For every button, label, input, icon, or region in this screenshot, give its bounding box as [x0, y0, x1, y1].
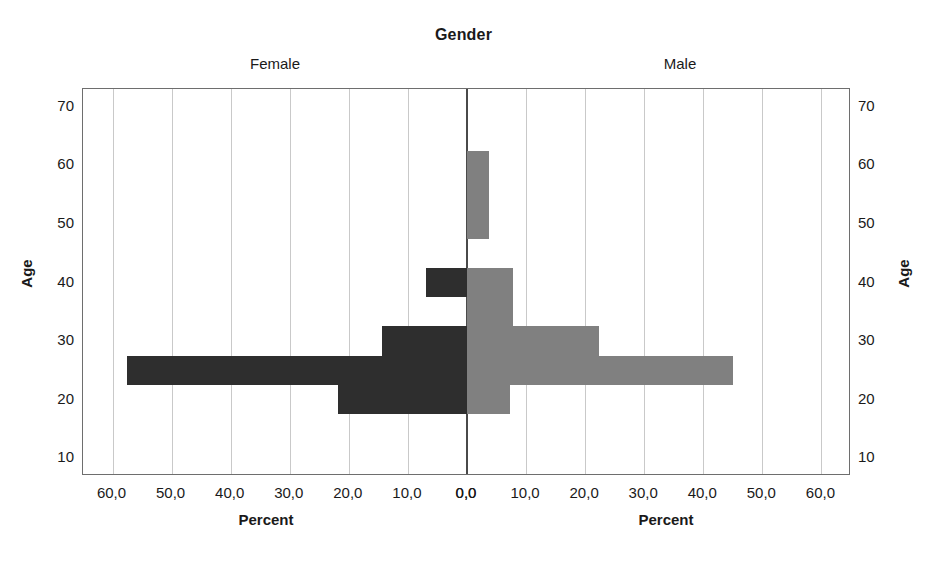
y-tick-label-left: 10	[34, 448, 74, 466]
y-tick-label-left: 70	[34, 97, 74, 115]
gridline	[703, 89, 704, 474]
gridline	[585, 89, 586, 474]
x-axis-title-left: Percent	[166, 511, 366, 528]
y-tick-label-right: 70	[858, 97, 898, 115]
bar-female-age-30	[382, 326, 467, 355]
gridline	[408, 89, 409, 474]
x-tick-label: 20,0	[318, 484, 378, 501]
y-tick-label-right: 20	[858, 390, 898, 408]
gridline	[821, 89, 822, 474]
y-tick-label-right: 30	[858, 331, 898, 349]
bar-male-age-55	[467, 180, 489, 209]
x-tick-label: 50,0	[141, 484, 201, 501]
bar-female-age-40	[426, 268, 467, 297]
gridline	[113, 89, 114, 474]
x-axis-title-right: Percent	[566, 511, 766, 528]
gridline	[231, 89, 232, 474]
gridline	[762, 89, 763, 474]
y-tick-label-left: 40	[34, 273, 74, 291]
population-pyramid-chart: Gender Female Male Age Age Percent Perce…	[0, 0, 927, 565]
x-tick-label: 60,0	[82, 484, 142, 501]
bar-male-age-50	[467, 209, 489, 238]
bar-male-age-60	[467, 151, 489, 180]
x-tick-label: 50,0	[731, 484, 791, 501]
bar-male-age-20	[467, 385, 510, 414]
y-tick-label-left: 50	[34, 214, 74, 232]
panel-label-female: Female	[195, 55, 355, 72]
x-tick-label: 40,0	[672, 484, 732, 501]
gridline	[349, 89, 350, 474]
y-tick-label-right: 40	[858, 273, 898, 291]
y-tick-label-left: 20	[34, 390, 74, 408]
x-tick-label: 40,0	[200, 484, 260, 501]
panel-label-male: Male	[600, 55, 760, 72]
y-axis-title-left: Age	[18, 244, 35, 304]
y-tick-label-right: 60	[858, 155, 898, 173]
gridline	[290, 89, 291, 474]
x-tick-label: 30,0	[613, 484, 673, 501]
x-tick-label: 10,0	[377, 484, 437, 501]
plot-area	[82, 88, 850, 475]
bar-male-age-35	[467, 297, 513, 326]
y-tick-label-left: 60	[34, 155, 74, 173]
y-tick-label-right: 10	[858, 448, 898, 466]
x-tick-label: 0,0	[436, 484, 496, 501]
x-tick-label: 30,0	[259, 484, 319, 501]
x-tick-label: 20,0	[554, 484, 614, 501]
gridline	[526, 89, 527, 474]
bar-male-age-40	[467, 268, 513, 297]
x-tick-label: 10,0	[495, 484, 555, 501]
bar-female-age-20	[338, 385, 467, 414]
y-tick-label-left: 30	[34, 331, 74, 349]
gridline	[172, 89, 173, 474]
bar-male-age-25	[467, 356, 733, 385]
gridline	[644, 89, 645, 474]
y-tick-label-right: 50	[858, 214, 898, 232]
x-tick-label: 60,0	[790, 484, 850, 501]
bar-female-age-25	[127, 356, 467, 385]
bar-male-age-30	[467, 326, 599, 355]
chart-title: Gender	[0, 26, 927, 44]
